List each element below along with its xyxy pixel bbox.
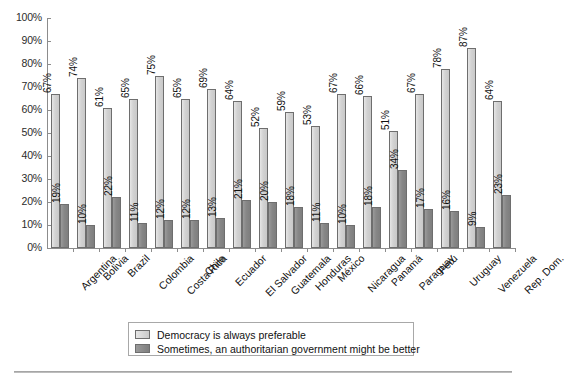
y-axis-tick-mark bbox=[47, 41, 51, 42]
x-axis-tick-mark bbox=[307, 248, 308, 252]
y-axis-tick-label: 60% bbox=[22, 103, 42, 115]
y-axis-tick-mark bbox=[47, 202, 51, 203]
bar-group: 64%21% bbox=[229, 18, 255, 248]
y-axis-tick-label: 90% bbox=[22, 34, 42, 46]
bar-value-label: 66% bbox=[354, 75, 365, 95]
y-axis: 100%90%80%70%60%50%40%30%20%10%0% bbox=[0, 18, 48, 249]
x-axis-tick-mark bbox=[203, 248, 204, 252]
x-axis-tick-mark bbox=[489, 248, 490, 252]
bar-value-label: 12% bbox=[181, 199, 192, 219]
bar[interactable]: 69% bbox=[207, 89, 216, 248]
bar-group: 78%16% bbox=[437, 18, 463, 248]
y-axis-tick-mark bbox=[47, 248, 51, 249]
bar-value-label: 51% bbox=[380, 110, 391, 130]
bar[interactable]: 65% bbox=[181, 99, 190, 249]
y-axis-tick-label: 50% bbox=[22, 126, 42, 138]
x-axis-tick-mark bbox=[281, 248, 282, 252]
x-axis-tick-mark bbox=[177, 248, 178, 252]
y-axis-tick-label: 20% bbox=[22, 195, 42, 207]
y-axis-tick-mark bbox=[47, 110, 51, 111]
plot-area: 67%19%74%10%61%22%65%11%75%12%65%12%69%1… bbox=[47, 18, 515, 248]
x-axis-tick-mark bbox=[333, 248, 334, 252]
bar[interactable]: 18% bbox=[372, 207, 381, 248]
bar[interactable]: 66% bbox=[363, 96, 372, 248]
bar-value-label: 52% bbox=[250, 107, 261, 127]
bar[interactable]: 78% bbox=[441, 69, 450, 248]
bar[interactable]: 17% bbox=[424, 209, 433, 248]
x-axis-category-labels: ArgentinaBoliviaBrazilColombiaCosta Rica… bbox=[47, 252, 515, 312]
bar[interactable]: 16% bbox=[450, 211, 459, 248]
bar-group: 75%12% bbox=[151, 18, 177, 248]
bar-value-label: 11% bbox=[129, 202, 140, 221]
bar[interactable]: 67% bbox=[51, 94, 60, 248]
bar-group: 59%18% bbox=[281, 18, 307, 248]
bar[interactable]: 53% bbox=[311, 126, 320, 248]
bar-group: 64%23% bbox=[489, 18, 515, 248]
bar[interactable]: 67% bbox=[415, 94, 424, 248]
bar-group: 74%10% bbox=[73, 18, 99, 248]
bar-value-label: 78% bbox=[432, 48, 443, 68]
y-axis-tick-label: 40% bbox=[22, 149, 42, 161]
bar[interactable]: 13% bbox=[216, 218, 225, 248]
x-axis-tick-mark bbox=[463, 248, 464, 252]
bar-value-label: 87% bbox=[458, 27, 469, 47]
bar-group: 52%20% bbox=[255, 18, 281, 248]
bar[interactable]: 22% bbox=[112, 197, 121, 248]
bar-value-label: 74% bbox=[68, 57, 79, 77]
bar-group: 61%22% bbox=[99, 18, 125, 248]
bar-value-label: 18% bbox=[285, 186, 296, 206]
legend-swatch-light bbox=[135, 330, 150, 339]
x-axis-tick-mark bbox=[385, 248, 386, 252]
bar[interactable]: 18% bbox=[294, 207, 303, 248]
bar-group: 66%18% bbox=[359, 18, 385, 248]
bar[interactable]: 9% bbox=[476, 227, 485, 248]
bar[interactable]: 59% bbox=[285, 112, 294, 248]
y-axis-tick-label: 10% bbox=[22, 218, 42, 230]
bar[interactable]: 10% bbox=[346, 225, 355, 248]
y-axis-tick-mark bbox=[47, 179, 51, 180]
bar-value-label: 69% bbox=[198, 68, 209, 88]
bar[interactable]: 21% bbox=[242, 200, 251, 248]
x-axis-tick-mark bbox=[229, 248, 230, 252]
bar[interactable]: 19% bbox=[60, 204, 69, 248]
bar-value-label: 19% bbox=[51, 183, 62, 203]
bar[interactable]: 11% bbox=[138, 223, 147, 248]
x-axis-tick-mark bbox=[125, 248, 126, 252]
bar-value-label: 9% bbox=[467, 212, 478, 226]
y-axis-tick-mark bbox=[47, 87, 51, 88]
x-axis-category-label: Ecuador bbox=[232, 252, 268, 288]
bar[interactable]: 75% bbox=[155, 76, 164, 249]
bar[interactable]: 64% bbox=[233, 101, 242, 248]
bar-value-label: 65% bbox=[172, 77, 183, 97]
y-axis-tick-label: 70% bbox=[22, 80, 42, 92]
x-axis-tick-mark bbox=[411, 248, 412, 252]
bar[interactable]: 23% bbox=[502, 195, 511, 248]
x-axis-tick-mark bbox=[437, 248, 438, 252]
bar[interactable]: 11% bbox=[320, 223, 329, 248]
bar[interactable]: 65% bbox=[129, 99, 138, 249]
bar-value-label: 18% bbox=[363, 186, 374, 206]
bar[interactable]: 12% bbox=[190, 220, 199, 248]
bar[interactable]: 12% bbox=[164, 220, 173, 248]
y-axis-tick-mark bbox=[47, 133, 51, 134]
x-axis-tick-mark bbox=[359, 248, 360, 252]
bar[interactable]: 10% bbox=[86, 225, 95, 248]
legend-label: Democracy is always preferable bbox=[157, 329, 306, 341]
bar-value-label: 64% bbox=[484, 80, 495, 100]
bar[interactable]: 67% bbox=[337, 94, 346, 248]
bar[interactable]: 34% bbox=[398, 170, 407, 248]
bar-value-label: 10% bbox=[337, 204, 348, 224]
x-axis-tick-mark bbox=[515, 248, 516, 252]
bar-value-label: 75% bbox=[146, 54, 157, 74]
bar-value-label: 61% bbox=[94, 87, 105, 107]
legend-label: Sometimes, an authoritarian government m… bbox=[157, 343, 420, 355]
bar-group: 67%10% bbox=[333, 18, 359, 248]
legend-item: Sometimes, an authoritarian government m… bbox=[135, 342, 407, 355]
bar-group: 87%9% bbox=[463, 18, 489, 248]
y-axis-tick-label: 100% bbox=[16, 11, 42, 23]
bar[interactable]: 20% bbox=[268, 202, 277, 248]
bar-value-label: 17% bbox=[415, 188, 426, 208]
bar-value-label: 34% bbox=[389, 149, 400, 169]
bar-value-label: 16% bbox=[441, 190, 452, 210]
